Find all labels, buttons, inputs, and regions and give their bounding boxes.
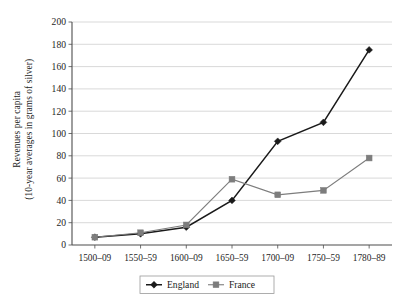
y-tick-label: 20 <box>56 217 66 228</box>
x-axis-ticks: 1500–091550–591600–091650–591700–091750–… <box>78 245 385 263</box>
y-tick-label: 200 <box>52 16 67 27</box>
y-tick-label: 160 <box>52 61 67 72</box>
gridlines <box>72 22 392 245</box>
x-tick-label: 1650–59 <box>216 253 249 263</box>
data-point-marker <box>92 234 98 240</box>
x-tick-label: 1780–89 <box>353 253 386 263</box>
y-tick-label: 140 <box>52 83 67 94</box>
data-point-marker <box>321 187 327 193</box>
y-tick-label: 0 <box>61 239 66 250</box>
legend-swatch-marker <box>213 282 219 288</box>
data-point-marker <box>275 192 281 198</box>
x-tick-label: 1550–59 <box>124 253 157 263</box>
y-axis-ticks: 020406080100120140160180200 <box>52 16 72 250</box>
series-lines <box>95 50 369 237</box>
legend: EnglandFrance <box>140 276 274 294</box>
y-tick-label: 120 <box>52 106 67 117</box>
x-tick-label: 1500–09 <box>78 253 111 263</box>
series-markers <box>91 46 372 240</box>
legend-label-france: France <box>229 279 255 290</box>
series-line-england <box>95 50 369 237</box>
y-tick-label: 180 <box>52 39 67 50</box>
x-tick-label: 1750–59 <box>307 253 340 263</box>
data-point-marker <box>183 222 189 228</box>
y-tick-label: 60 <box>56 173 66 184</box>
data-point-marker <box>366 155 372 161</box>
y-tick-label: 100 <box>52 128 67 139</box>
legend-label-england: England <box>167 279 199 290</box>
y-tick-label: 40 <box>56 195 66 206</box>
x-tick-label: 1700–09 <box>261 253 294 263</box>
y-tick-label: 80 <box>56 150 66 161</box>
chart-canvas: 020406080100120140160180200 1500–091550–… <box>0 0 414 305</box>
data-point-marker <box>138 230 144 236</box>
x-tick-label: 1600–09 <box>170 253 203 263</box>
revenues-per-capita-line-chart: Revenues per capita (10-year averages in… <box>0 0 414 305</box>
data-point-marker <box>229 176 235 182</box>
